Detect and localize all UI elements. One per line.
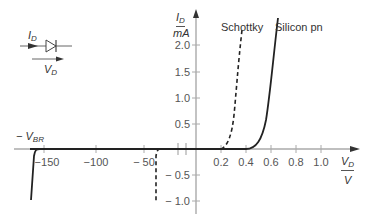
legend-voltage-sub: D	[51, 68, 57, 77]
y-tick-label: − 0.5	[150, 170, 190, 181]
y-axis-arrow-icon	[193, 9, 199, 18]
y-tick-label: 0.5	[150, 119, 190, 130]
vbr-text: − V	[16, 130, 33, 142]
x-tick-label: 1.0	[313, 157, 328, 168]
x-tick-label: − 50	[133, 157, 155, 168]
y-axis-label: ID	[176, 12, 185, 27]
x-tick-label: −100	[84, 157, 109, 168]
vbr-label: − VBR	[16, 131, 44, 144]
x-axis-arrow-icon	[350, 146, 360, 152]
x-axis-label-sub: D	[348, 160, 354, 169]
y-tick-label: 1.0	[150, 93, 190, 104]
y-tick-label: 2.0	[150, 40, 190, 51]
silicon-pn-label: Silicon pn	[275, 22, 323, 33]
legend-current-sub: D	[31, 34, 37, 43]
legend-voltage-label: VD	[44, 64, 57, 77]
x-tick-label: −150	[35, 157, 60, 168]
x-tick-label: 0.2	[213, 157, 228, 168]
diode-symbol	[20, 40, 72, 62]
y-axis-unit: mA	[173, 28, 190, 39]
x-tick-label: 0.8	[288, 157, 303, 168]
schottky-curve	[221, 30, 242, 149]
y-tick-label: 1.5	[150, 67, 190, 78]
y-axis-label-sub: D	[179, 16, 185, 25]
voltage-arrow-icon	[56, 57, 64, 62]
y-tick-label: − 1.0	[150, 196, 190, 207]
legend-current-label: ID	[28, 30, 37, 43]
x-axis-label: VD	[341, 156, 354, 171]
vbr-sub: BR	[33, 135, 44, 144]
x-axis-unit: V	[344, 175, 351, 186]
current-arrow-icon	[28, 43, 38, 49]
schottky-label: Schottky	[221, 22, 263, 33]
x-tick-label: 0.4	[238, 157, 253, 168]
x-tick-label: 0.6	[263, 157, 278, 168]
